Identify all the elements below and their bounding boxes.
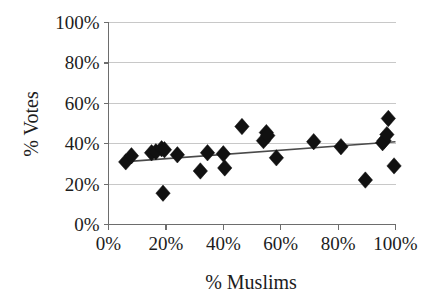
data-point-marker [193, 163, 207, 179]
y-axis-title: % Votes [20, 91, 42, 157]
x-tick-label: 40% [206, 233, 241, 254]
data-point-marker [156, 185, 170, 201]
data-point-marker [334, 139, 348, 155]
data-point-marker [170, 147, 184, 163]
axis-group [109, 23, 396, 225]
y-tick-label-group: 0%20%40%60%80%100% [55, 12, 100, 235]
x-tick-label: 100% [373, 233, 418, 254]
scatter-plot-figure: 0%20%40%60%80%100% 0%20%40%60%80%100% % … [0, 0, 437, 298]
y-tick-label: 40% [65, 133, 100, 154]
x-tick-label: 80% [321, 233, 356, 254]
x-tick-label: 0% [96, 233, 122, 254]
y-tick-label: 60% [65, 93, 100, 114]
gridline-group [109, 23, 396, 225]
x-tick-label-group: 0%20%40%60%80%100% [96, 233, 418, 254]
data-point-marker [216, 146, 230, 162]
chart-canvas: 0%20%40%60%80%100% 0%20%40%60%80%100% % … [0, 0, 437, 298]
x-tick-label: 60% [263, 233, 298, 254]
y-tick-label: 20% [65, 174, 100, 195]
tickmark-group [104, 23, 396, 230]
y-tick-label: 100% [55, 12, 100, 33]
data-point-marker [218, 160, 232, 176]
data-point-marker [200, 145, 214, 161]
y-tick-label: 80% [65, 52, 100, 73]
data-point-marker [387, 158, 401, 174]
data-point-marker [358, 172, 372, 188]
x-tick-label: 20% [148, 233, 183, 254]
data-point-marker [269, 150, 283, 166]
datapoint-group [119, 110, 402, 201]
x-axis-title: % Muslims [205, 271, 297, 293]
data-point-marker [235, 118, 249, 134]
data-point-marker [381, 110, 395, 126]
